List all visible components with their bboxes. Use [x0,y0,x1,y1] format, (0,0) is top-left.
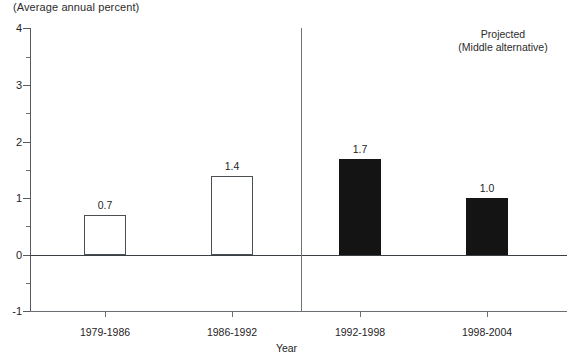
bar-value-1992-1998: 1.7 [330,143,390,155]
y-minor-tick-3p5 [26,57,30,58]
bar-chart: (Average annual percent) Projected (Midd… [0,0,573,358]
y-axis-label-0: 0 [0,249,22,261]
x-tick-1998-2004 [487,311,488,317]
bar-1986-1992 [211,176,253,255]
y-axis-line [30,28,31,312]
x-axis-title: Year [0,342,573,354]
y-axis-label-neg1: -1 [0,305,22,317]
y-tick-1 [23,198,30,199]
bar-1992-1998 [339,159,381,255]
plot-area: 4 3 2 1 0 -1 1979-1986 1986-1992 1992-19… [0,0,573,358]
x-axis-label-1986-1992: 1986-1992 [177,326,287,338]
y-axis-label-4: 4 [0,22,22,34]
y-axis-label-1: 1 [0,192,22,204]
y-axis-label-2: 2 [0,136,22,148]
y-tick-3 [23,85,30,86]
bar-value-1979-1986: 0.7 [75,199,135,211]
bar-value-1998-2004: 1.0 [457,182,517,194]
x-axis-label-1992-1998: 1992-1998 [305,326,415,338]
bar-1979-1986 [84,215,126,255]
bar-1998-2004 [466,198,508,255]
period-divider-line [301,28,302,312]
y-minor-tick-0p5 [26,226,30,227]
y-minor-tick-2p5 [26,113,30,114]
y-minor-tick-neg0p5 [26,283,30,284]
y-tick-4 [23,28,30,29]
x-tick-1979-1986 [105,311,106,317]
x-axis-label-1979-1986: 1979-1986 [50,326,160,338]
y-tick-neg1 [23,311,30,312]
x-tick-1986-1992 [232,311,233,317]
y-axis-label-3: 3 [0,79,22,91]
x-axis-label-1998-2004: 1998-2004 [432,326,542,338]
y-tick-0 [23,255,30,256]
bar-value-1986-1992: 1.4 [202,160,262,172]
zero-baseline [30,255,567,256]
y-minor-tick-1p5 [26,170,30,171]
y-tick-2 [23,142,30,143]
x-tick-1992-1998 [360,311,361,317]
